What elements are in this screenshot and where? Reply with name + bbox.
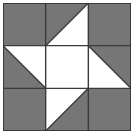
quilt-patch-bottom-right [88,88,131,131]
quilt-patch-top-left [3,3,46,46]
quilt-patch-center [46,46,89,89]
image-canvas [0,0,137,140]
quilt-patch-top-right [88,3,131,46]
quilt-patch-bottom-left [3,88,46,131]
quilt-block-figure [3,3,131,131]
quilt-block-svg [3,3,131,131]
patch-layer [3,3,131,131]
